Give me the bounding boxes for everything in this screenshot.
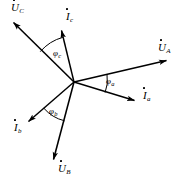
- phasor-arrow-i-c: [62, 31, 75, 83]
- phasor-dot-u-c: [13, 0, 15, 1]
- angle-label-phi-b: φb: [49, 107, 57, 116]
- phasor-label-i-b: Ib: [14, 122, 21, 133]
- phasor-label-i-a: Ia: [143, 90, 150, 101]
- phasor-dot-u-b: [60, 160, 62, 162]
- phasor-diagram-figure: UA Ia UC Ic UB Ib φa φc φb: [0, 0, 188, 184]
- phasor-arrow-u-a: [74, 61, 167, 82]
- phasor-dot-i-c: [66, 8, 68, 10]
- phasor-dot-i-b: [14, 119, 16, 121]
- phasor-label-i-c: Ic: [66, 11, 73, 22]
- angle-label-phi-a: φa: [106, 77, 114, 86]
- phasor-dot-u-a: [160, 39, 162, 41]
- phasor-diagram-canvas: [0, 0, 188, 184]
- phasor-label-u-c: UC: [11, 2, 24, 13]
- phasor-arrow-i-a: [74, 82, 135, 101]
- angle-label-phi-c: φc: [53, 49, 61, 58]
- phasor-label-u-a: UA: [158, 42, 170, 53]
- phasor-dot-i-a: [143, 87, 145, 89]
- phasor-label-u-b: UB: [58, 163, 70, 174]
- phasor-arrow-u-c: [14, 23, 75, 83]
